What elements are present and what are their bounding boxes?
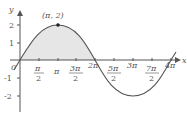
origin-label: 0 — [11, 63, 16, 72]
x-tick-label-3pi-over-2: 3π 2 — [69, 64, 83, 83]
svg-text:7π: 7π — [146, 64, 157, 73]
x-axis-label: x — [182, 56, 187, 65]
svg-text:2: 2 — [36, 74, 41, 83]
y-tick-1: 1 — [9, 39, 14, 48]
x-tick-label-7pi-over-2: 7π 2 — [145, 64, 159, 83]
sine-chart: (π, 2) y x 0 2 1 -1 -2 π 2 π 3π 2 2π π 5… — [0, 0, 187, 122]
x-tick-label-3pi: 3π — [127, 61, 138, 70]
max-point — [56, 23, 60, 27]
svg-text:π: π — [34, 64, 41, 73]
x-tick-label-pi-over-2: π 2 — [34, 64, 44, 83]
x-axis-arrow-icon — [175, 57, 181, 63]
svg-text:5π: 5π — [108, 64, 119, 73]
point-label: (π, 2) — [42, 11, 64, 20]
x-tick-label-5pi-over-2: π 5π 2 — [107, 64, 121, 83]
svg-text:2: 2 — [111, 74, 116, 83]
x-tick-label-pi: π — [53, 67, 60, 76]
svg-text:3π: 3π — [70, 64, 81, 73]
svg-text:2: 2 — [73, 74, 78, 83]
svg-text:2: 2 — [149, 74, 154, 83]
y-axis-label: y — [8, 5, 14, 14]
y-tick-neg1: -1 — [4, 74, 12, 83]
x-tick-label-4pi: 4π — [164, 61, 176, 70]
x-tick-label-2pi: 2π — [87, 61, 99, 70]
y-tick-neg2: -2 — [4, 92, 12, 101]
y-tick-2: 2 — [9, 21, 14, 30]
y-axis-arrow-icon — [17, 10, 23, 16]
